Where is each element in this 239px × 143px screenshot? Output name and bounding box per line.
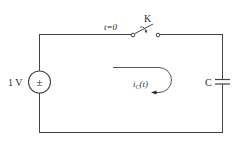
switch-label: K (144, 13, 152, 24)
switch-terminal-right (156, 33, 160, 37)
switch-k: K t=0 (104, 13, 160, 37)
voltage-source-label: 1 V (8, 77, 23, 88)
switch-time-label: t=0 (104, 22, 118, 32)
voltage-source-symbol: ± (36, 76, 42, 88)
switch-terminal-left (131, 33, 135, 37)
capacitor: C (205, 77, 230, 88)
circuit-wires (39, 34, 223, 133)
capacitor-label: C (205, 77, 212, 88)
current-label: iC(t) (133, 79, 148, 90)
voltage-source: ± 1 V (8, 71, 51, 93)
circuit-diagram: ± 1 V K t=0 C iC(t) (0, 0, 239, 143)
